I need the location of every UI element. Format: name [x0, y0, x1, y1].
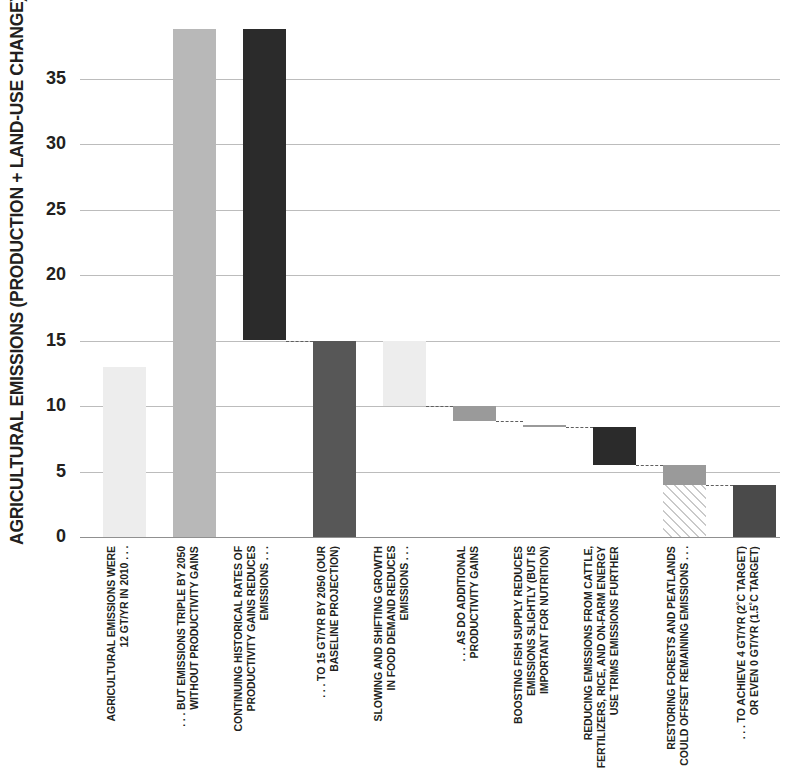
- x-axis-label-5-line-2: IN FOOD DEMAND REDUCES: [385, 546, 398, 721]
- x-axis-label-10-line-2: OR EVEN 0 GT/YR (1.5˚C TARGET): [748, 546, 761, 739]
- x-axis-label-2-line-1: . . . BUT EMISSIONS TRIPLE BY 2050: [175, 546, 188, 727]
- x-axis-label-5-line-3: EMISSIONS . . .: [398, 546, 411, 721]
- x-axis-label-1: AGRICULTURAL EMISSIONS WERE12 GT/YR IN 2…: [105, 546, 131, 746]
- x-axis-label-8-line-2: FERTILIZERS, RICE, AND ON-FARM ENERGY: [595, 546, 608, 768]
- connector-6-to-7: [496, 421, 523, 422]
- x-axis-label-3: CONTINUING HISTORICAL RATES OFPRODUCTIVI…: [232, 546, 271, 746]
- x-axis-label-10: . . . TO ACHIEVE 4 GT/YR (2˚C TARGET)OR …: [735, 546, 761, 746]
- bar-5[interactable]: [383, 341, 426, 407]
- connector-3-to-4: [286, 341, 313, 342]
- x-axis-label-7-line-1: BOOSTING FISH SUPPLY REDUCES: [512, 546, 525, 724]
- x-axis-labels: AGRICULTURAL EMISSIONS WERE12 GT/YR IN 2…: [80, 546, 780, 752]
- x-axis-label-3-line-2: PRODUCTIVITY GAINS REDUCES: [245, 546, 258, 731]
- plot-area: 35302520151050: [80, 20, 780, 538]
- bar-9[interactable]: [663, 465, 706, 485]
- x-axis-label-9: RESTORING FORESTS AND PEATLANDSCOULD OFF…: [665, 546, 691, 746]
- y-tick-label-30: 30: [26, 133, 66, 154]
- x-axis-label-8: REDUCING EMISSIONS FROM CATTLE,FERTILIZE…: [582, 546, 621, 746]
- x-axis-label-9-line-2: COULD OFFSET REMAINING EMISSIONS . . .: [678, 546, 691, 766]
- x-axis-label-7-line-3: IMPORTANT FOR NUTRITION): [538, 546, 551, 724]
- x-axis-label-4: . . . TO 15 GT/YR BY 2050 (OURBASELINE P…: [315, 546, 341, 746]
- y-axis-title-text: AGRICULTURAL EMISSIONS (PRODUCTION + LAN…: [7, 0, 28, 544]
- x-axis-label-2-line-2: WITHOUT PRODUCTIVITY GAINS: [188, 546, 201, 727]
- bar-1[interactable]: [103, 367, 146, 537]
- y-tick-label-10: 10: [26, 395, 66, 416]
- x-axis-label-4-line-2: BASELINE PROJECTION): [328, 546, 341, 698]
- bar-3[interactable]: [243, 29, 286, 341]
- bar-2[interactable]: [173, 29, 216, 537]
- x-axis-label-7: BOOSTING FISH SUPPLY REDUCESEMISSIONS SL…: [512, 546, 551, 746]
- x-axis-label-8-line-3: USE TRIMS EMISSIONS FURTHER: [608, 546, 621, 768]
- bar-7[interactable]: [523, 425, 566, 427]
- connector-7-to-8: [566, 427, 593, 428]
- y-tick-label-35: 35: [26, 68, 66, 89]
- x-axis-label-2: . . . BUT EMISSIONS TRIPLE BY 2050WITHOU…: [175, 546, 201, 746]
- x-axis-label-5: SLOWING AND SHIFTING GROWTHIN FOOD DEMAN…: [372, 546, 411, 746]
- x-axis-label-5-line-1: SLOWING AND SHIFTING GROWTH: [372, 546, 385, 721]
- connector-8-to-9: [636, 465, 663, 466]
- x-axis-label-9-line-1: RESTORING FORESTS AND PEATLANDS: [665, 546, 678, 766]
- y-tick-label-5: 5: [26, 461, 66, 482]
- gridline-0: [80, 537, 780, 538]
- bar-6[interactable]: [453, 406, 496, 421]
- x-axis-label-3-line-1: CONTINUING HISTORICAL RATES OF: [232, 546, 245, 731]
- x-axis-label-6-line-2: PRODUCTIVITY GAINS: [468, 546, 481, 661]
- y-tick-label-25: 25: [26, 199, 66, 220]
- x-axis-label-6: . . . AS DO ADDITIONALPRODUCTIVITY GAINS: [455, 546, 481, 746]
- connector-5-to-6: [426, 406, 453, 407]
- y-tick-label-20: 20: [26, 264, 66, 285]
- x-axis-label-10-line-1: . . . TO ACHIEVE 4 GT/YR (2˚C TARGET): [735, 546, 748, 739]
- x-axis-label-1-line-2: 12 GT/YR IN 2010 . . .: [118, 546, 131, 721]
- x-axis-label-4-line-1: . . . TO 15 GT/YR BY 2050 (OUR: [315, 546, 328, 698]
- y-tick-label-0: 0: [26, 526, 66, 547]
- bar-4[interactable]: [313, 341, 356, 538]
- x-axis-label-7-line-2: EMISSIONS SLIGHTLY (BUT IS: [525, 546, 538, 724]
- x-axis-label-8-line-1: REDUCING EMISSIONS FROM CATTLE,: [582, 546, 595, 768]
- bar-10[interactable]: [733, 485, 776, 537]
- x-axis-label-3-line-3: EMISSIONS . . .: [258, 546, 271, 731]
- x-axis-label-1-line-1: AGRICULTURAL EMISSIONS WERE: [105, 546, 118, 721]
- hatched-offset-region: [663, 485, 706, 537]
- y-tick-label-15: 15: [26, 330, 66, 351]
- connector-9-to-10: [706, 485, 733, 486]
- x-axis-label-6-line-1: . . . AS DO ADDITIONAL: [455, 546, 468, 661]
- bar-8[interactable]: [593, 427, 636, 465]
